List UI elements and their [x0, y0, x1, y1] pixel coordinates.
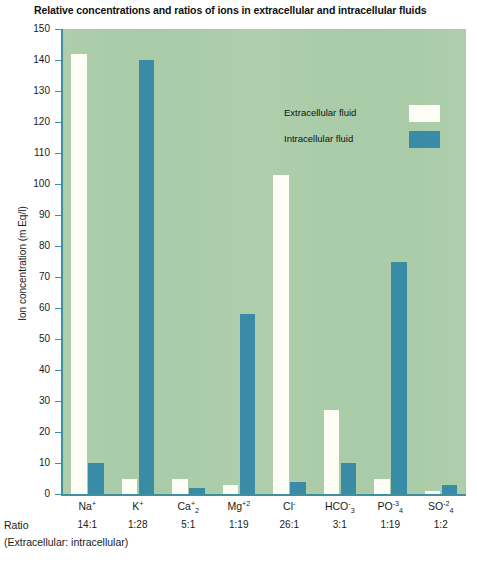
chart-legend: Extracellular fluidIntracellular fluid: [284, 105, 464, 157]
y-axis-tick-label: 10: [18, 457, 50, 468]
y-axis-tick: [55, 401, 62, 402]
legend-item-intracellular: Intracellular fluid: [284, 131, 464, 157]
x-axis-ratio-label: 1:2: [406, 519, 476, 530]
y-axis-tick-label: 140: [18, 54, 50, 65]
bar-extracellular-K+: [122, 479, 138, 495]
y-axis-tick: [55, 494, 62, 495]
y-axis-tick: [55, 246, 62, 247]
bar-extracellular-PO4-3: [374, 479, 390, 495]
legend-swatch-extracellular: [409, 105, 440, 122]
y-axis-tick: [55, 153, 62, 154]
y-axis-tick: [55, 308, 62, 309]
chart-title: Relative concentrations and ratios of io…: [34, 4, 474, 16]
legend-swatch-intracellular: [409, 131, 440, 148]
y-axis-tick-label: 0: [18, 488, 50, 499]
legend-label: Intracellular fluid: [284, 133, 353, 144]
legend-label: Extracellular fluid: [284, 107, 356, 118]
y-axis-tick: [55, 339, 62, 340]
y-axis-line: [61, 29, 63, 495]
ratio-row-label: Ratio: [4, 519, 29, 531]
y-axis-tick: [55, 432, 62, 433]
bar-chart-figure: Relative concentrations and ratios of io…: [0, 0, 477, 573]
plot-area: Extracellular fluidIntracellular fluid: [62, 29, 466, 494]
bar-extracellular-HCO3-: [324, 410, 340, 494]
y-axis-tick: [55, 29, 62, 30]
bar-extracellular-Cl-: [273, 175, 289, 494]
bar-extracellular-Na+: [71, 54, 87, 494]
x-axis-line: [61, 494, 466, 496]
bar-intracellular-Na+: [88, 463, 104, 494]
y-axis-tick: [55, 184, 62, 185]
y-axis-tick: [55, 122, 62, 123]
bar-intracellular-PO4-3: [391, 262, 407, 495]
bar-intracellular-K+: [139, 60, 155, 494]
y-axis-tick: [55, 60, 62, 61]
y-axis-tick: [55, 463, 62, 464]
bar-extracellular-Mg+2: [223, 485, 239, 494]
bar-extracellular-Ca+2: [172, 479, 188, 495]
y-axis-title: Ion concentration (m Eq/l): [17, 154, 28, 374]
y-axis-tick-label: 120: [18, 116, 50, 127]
y-axis-tick-label: 20: [18, 426, 50, 437]
y-axis-tick: [55, 370, 62, 371]
y-axis-tick-label: 130: [18, 85, 50, 96]
ratio-caption: (Extracellular: intracellular): [4, 536, 128, 548]
legend-item-extracellular: Extracellular fluid: [284, 105, 464, 131]
bar-intracellular-SO4-2: [442, 485, 458, 494]
bar-intracellular-Mg+2: [240, 314, 256, 494]
bar-intracellular-Cl-: [290, 482, 306, 494]
y-axis-tick: [55, 277, 62, 278]
y-axis-tick: [55, 215, 62, 216]
y-axis-tick-label: 30: [18, 395, 50, 406]
y-axis-tick-label: 150: [18, 23, 50, 34]
y-axis-tick: [55, 91, 62, 92]
x-axis-ion-label: SO-24: [406, 500, 476, 512]
bar-intracellular-HCO3-: [341, 463, 357, 494]
